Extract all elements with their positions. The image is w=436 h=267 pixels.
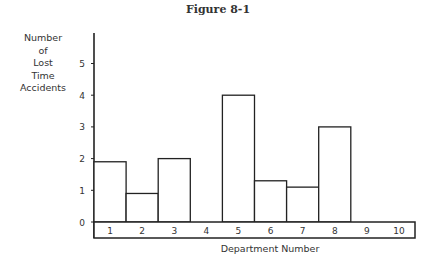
bar-dept-3 <box>158 159 190 222</box>
x-tick-label: 10 <box>393 226 405 236</box>
y-tick-label: 1 <box>79 186 85 196</box>
bar-dept-5 <box>222 95 254 222</box>
x-tick-label: 4 <box>203 226 209 236</box>
x-tick-label: 9 <box>364 226 370 236</box>
y-tick-label: 3 <box>79 122 85 132</box>
bar-chart: 01234512345678910 <box>0 0 436 267</box>
x-tick-label: 2 <box>139 226 145 236</box>
y-tick-label: 5 <box>79 59 85 69</box>
y-tick-label: 4 <box>79 91 85 101</box>
bar-dept-7 <box>287 187 319 222</box>
bar-dept-6 <box>255 181 287 222</box>
x-tick-label: 7 <box>300 226 306 236</box>
x-axis-label: Department Number <box>190 243 350 254</box>
bar-dept-8 <box>319 127 351 222</box>
x-tick-label: 8 <box>332 226 338 236</box>
x-tick-label: 6 <box>268 226 274 236</box>
y-tick-label: 2 <box>79 154 85 164</box>
bar-dept-2 <box>126 193 158 222</box>
x-tick-label: 1 <box>107 226 113 236</box>
x-tick-label: 3 <box>171 226 177 236</box>
bar-dept-1 <box>94 162 126 222</box>
x-tick-label: 5 <box>236 226 242 236</box>
y-tick-label: 0 <box>79 218 85 228</box>
